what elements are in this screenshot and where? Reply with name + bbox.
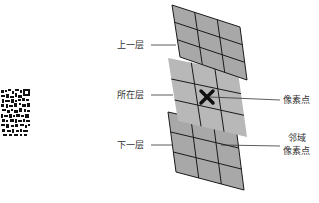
pixel-label: 像素点 <box>283 94 310 105</box>
neighbor-label-line2: 像素点 <box>283 145 310 156</box>
neighbor-label-line1: 邻域 <box>288 132 306 143</box>
scale-space-neighbor-diagram: 上一层 所在层 下一层 像素点 邻域 像素点 <box>0 0 319 203</box>
current-layer-label: 所在层 <box>117 89 144 100</box>
upper-layer-label: 上一层 <box>117 40 144 50</box>
lower-layer-label: 下一层 <box>117 140 144 150</box>
qr-code <box>1 88 31 138</box>
